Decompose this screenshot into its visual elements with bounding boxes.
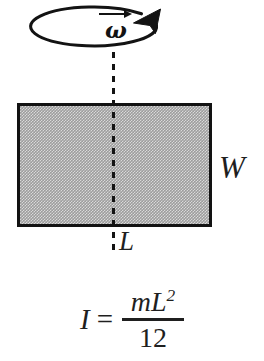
formula-lhs: I xyxy=(80,303,90,336)
formula-numerator-base: mL xyxy=(131,286,167,317)
formula-equals-sign: = xyxy=(97,303,113,336)
moment-of-inertia-formula: I = mL2 12 xyxy=(0,288,264,352)
rotation-axis-dashed-line xyxy=(112,52,115,256)
physics-figure: ω W L I = mL2 12 xyxy=(0,0,264,361)
angular-velocity-label: ω xyxy=(88,8,144,41)
formula-numerator: mL2 xyxy=(127,288,179,318)
formula-numerator-exponent: 2 xyxy=(167,286,176,305)
omega-symbol: ω xyxy=(88,18,144,41)
vector-arrow-head xyxy=(124,10,132,18)
formula-fraction: mL2 12 xyxy=(122,288,184,352)
width-label: W xyxy=(219,152,245,183)
formula-denominator: 12 xyxy=(139,321,167,352)
vector-arrow-shaft xyxy=(99,13,127,15)
length-label: L xyxy=(119,228,134,255)
vector-arrow-icon xyxy=(99,8,133,19)
